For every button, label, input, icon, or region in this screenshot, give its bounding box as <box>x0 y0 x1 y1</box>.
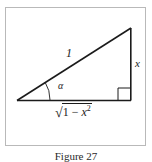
right-angle-marker-icon <box>118 88 131 100</box>
radicand: 1 − x2 <box>62 103 92 120</box>
triangle-side-hypotenuse <box>17 28 131 101</box>
square-root-expression: √1 − x2 <box>55 103 92 120</box>
radicand-exponent: 2 <box>87 104 91 113</box>
angle-alpha-label: α <box>58 81 63 91</box>
right-triangle-diagram <box>0 0 152 162</box>
opposite-side-label: x <box>135 58 140 69</box>
figure-container: 1 x α √1 − x2 Figure 27 <box>0 0 152 162</box>
hypotenuse-label: 1 <box>66 47 72 59</box>
adjacent-side-label: √1 − x2 <box>55 103 92 120</box>
figure-caption: Figure 27 <box>0 150 152 162</box>
radicand-minus-operator: − <box>69 105 82 119</box>
angle-arc-icon <box>45 82 50 100</box>
